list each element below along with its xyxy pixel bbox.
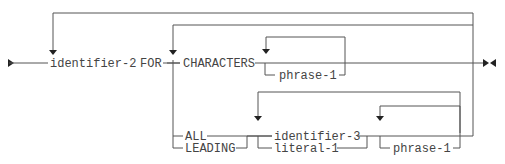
loop-arrow-icon (49, 50, 57, 55)
line (339, 63, 345, 75)
syntax-diagram: identifier-2 FOR CHARACTERS phrase-1 ALL… (0, 0, 505, 164)
end-arrow-icon (483, 59, 489, 67)
term-identifier-2: identifier-2 (50, 57, 136, 71)
loop-arrow-icon (254, 116, 262, 121)
line (258, 136, 272, 148)
term-phrase-1-optional: phrase-1 (279, 69, 337, 83)
term-literal-1: literal-1 (274, 142, 339, 156)
phrase-lower-repeat-loop (380, 106, 460, 136)
keyword-for: FOR (140, 57, 162, 71)
term-phrase-1-lower: phrase-1 (393, 142, 451, 156)
line (265, 63, 275, 75)
phrase-repeat-loop (266, 37, 345, 63)
line (380, 136, 390, 148)
loop-arrow-icon (376, 116, 384, 121)
outer-repeat-loop (53, 13, 473, 63)
line (236, 136, 247, 148)
loop-arrow-icon (169, 50, 177, 55)
end-arrow-icon (490, 59, 496, 67)
keyword-characters: CHARACTERS (183, 57, 255, 71)
line (453, 136, 460, 148)
keyword-leading: LEADING (185, 142, 235, 156)
identifier-repeat-loop (258, 92, 460, 133)
loop-arrow-icon (262, 49, 270, 54)
